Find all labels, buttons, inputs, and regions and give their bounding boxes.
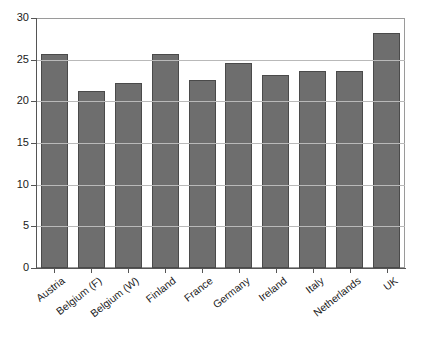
x-tick-mark	[387, 269, 388, 273]
gridline-overlay	[37, 60, 405, 61]
bar-chart: 051015202530 AustriaBelgium (F)Belgium (…	[0, 0, 422, 343]
x-tick-mark	[128, 269, 129, 273]
y-tick-mark	[31, 226, 36, 227]
x-tick-mark	[276, 269, 277, 273]
gridline-overlay	[37, 101, 405, 102]
bar	[262, 75, 289, 268]
y-tick-label: 10	[0, 179, 29, 190]
x-tick-mark	[313, 269, 314, 273]
bar	[225, 63, 252, 268]
x-tick-mark	[91, 269, 92, 273]
y-tick-mark	[31, 268, 36, 269]
y-tick-label: 30	[0, 12, 29, 23]
x-tick-mark	[350, 269, 351, 273]
y-tick-mark	[31, 101, 36, 102]
y-tick-mark	[31, 18, 36, 19]
x-tick-mark	[239, 269, 240, 273]
y-tick-mark	[31, 185, 36, 186]
y-tick-label: 20	[0, 95, 29, 106]
y-tick-mark	[31, 60, 36, 61]
bar	[115, 83, 142, 268]
y-tick-label: 5	[0, 220, 29, 231]
bar	[189, 80, 216, 268]
bar	[373, 33, 400, 268]
x-tick-mark	[54, 269, 55, 273]
y-tick-mark	[31, 143, 36, 144]
gridline-overlay	[37, 185, 405, 186]
x-tick-mark	[202, 269, 203, 273]
y-tick-label: 0	[0, 262, 29, 273]
bar	[41, 54, 68, 268]
x-tick-mark	[165, 269, 166, 273]
y-tick-label: 15	[0, 137, 29, 148]
gridline-overlay	[37, 226, 405, 227]
bar	[152, 54, 179, 268]
y-tick-label: 25	[0, 54, 29, 65]
gridline-overlay	[37, 143, 405, 144]
bar	[78, 91, 105, 268]
